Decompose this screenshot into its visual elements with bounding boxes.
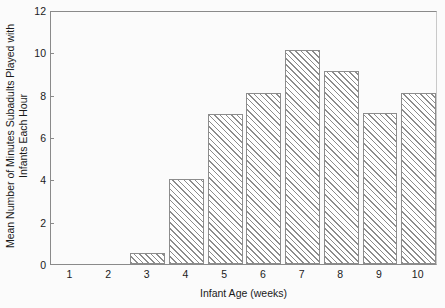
y-axis-tick-mark <box>50 180 54 181</box>
y-axis-tick-label: 8 <box>32 90 46 102</box>
y-axis-label-line1: Mean Number of Minutes Subadults Played … <box>4 24 16 248</box>
x-axis-title: Infant Age (weeks) <box>50 287 437 299</box>
y-axis-tick-label: 12 <box>32 5 46 17</box>
y-axis-tick-label: 2 <box>32 217 46 229</box>
x-axis-tick-label: 3 <box>144 268 150 280</box>
bar-week-3 <box>130 253 165 264</box>
y-axis-label-text: Mean Number of Minutes Subadults Played … <box>4 24 30 248</box>
x-axis-tick-label: 4 <box>183 268 189 280</box>
y-axis-tick-label: 0 <box>32 259 46 271</box>
y-axis-tick-labels: 024681012 <box>30 0 46 308</box>
y-axis-label: Mean Number of Minutes Subadults Played … <box>0 0 34 272</box>
x-axis-tick-label: 6 <box>260 268 266 280</box>
plot-area <box>50 11 437 265</box>
bar-chart-figure: Mean Number of Minutes Subadults Played … <box>0 0 445 308</box>
y-axis-tick-label: 6 <box>32 132 46 144</box>
bar-week-9 <box>363 113 398 264</box>
x-axis-tick-label: 7 <box>299 268 305 280</box>
y-axis-tick-mark <box>50 96 54 97</box>
y-axis-tick-mark <box>50 53 54 54</box>
x-axis-tick-label: 2 <box>105 268 111 280</box>
x-axis-tick-labels: 12345678910 <box>50 268 437 284</box>
x-axis-tick-label: 10 <box>412 268 424 280</box>
x-axis-tick-label: 1 <box>66 268 72 280</box>
bar-week-5 <box>208 114 243 264</box>
y-axis-tick-mark <box>50 223 54 224</box>
x-axis-tick-label: 8 <box>337 268 343 280</box>
bar-week-8 <box>324 71 359 264</box>
bar-week-10 <box>401 93 436 264</box>
x-axis-tick-label: 5 <box>221 268 227 280</box>
bar-week-4 <box>169 179 204 264</box>
bar-week-6 <box>246 93 281 264</box>
x-axis-tick-label: 9 <box>376 268 382 280</box>
y-axis-tick-label: 10 <box>32 47 46 59</box>
y-axis-tick-label: 4 <box>32 174 46 186</box>
y-axis-label-line2: Infants Each Hour <box>17 24 30 248</box>
y-axis-tick-mark <box>50 138 54 139</box>
bar-week-7 <box>285 50 320 264</box>
bar-series <box>51 12 436 264</box>
